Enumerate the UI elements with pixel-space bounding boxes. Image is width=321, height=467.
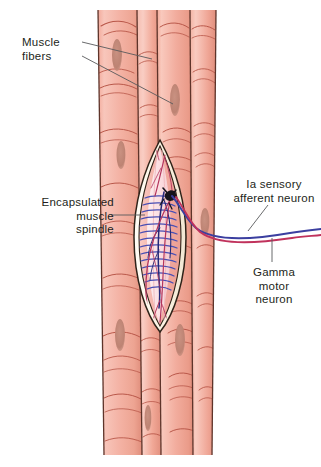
muscle-nucleus [117, 141, 126, 169]
leader-ia-sensory [248, 205, 268, 231]
muscle-nucleus [112, 39, 122, 71]
label-gamma-motor-neuron: Gamma motor neuron [238, 266, 310, 307]
label-muscle-fibers: Muscle fibers [22, 36, 96, 63]
muscle-nucleus [175, 324, 185, 356]
muscle-nucleus [145, 405, 152, 431]
anatomy-figure: Muscle fibers Encapsulated muscle spindl… [0, 0, 321, 467]
label-ia-sensory-afferent-neuron: Ia sensory afferent neuron [228, 178, 320, 205]
label-encapsulated-muscle-spindle: Encapsulated muscle spindle [8, 196, 114, 237]
muscle-nucleus [115, 319, 125, 351]
muscle-nucleus [170, 84, 180, 116]
